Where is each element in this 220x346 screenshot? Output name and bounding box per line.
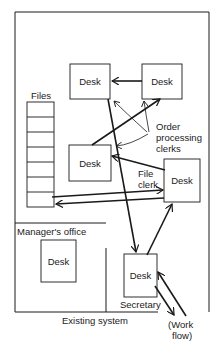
- desk-label: Desk: [41, 240, 76, 282]
- pointer-to-desk2: [144, 101, 149, 132]
- file-clerk-label-2: clerk: [138, 179, 158, 190]
- order-processing-label-3: clerks: [156, 143, 181, 154]
- files-label: Files: [31, 90, 51, 101]
- arrow-secretary-to-fileclerk: [147, 204, 172, 255]
- files-cabinet: [27, 102, 54, 207]
- work-flow-label-1: (Work: [168, 319, 193, 330]
- secretary-label: Secretary: [120, 299, 161, 310]
- diagram-title: Existing system: [62, 315, 128, 326]
- desk-label: Desk: [124, 254, 157, 297]
- pointer-to-desk3: [116, 134, 148, 146]
- manager-office-label: Manager's office: [17, 226, 86, 237]
- arrow-fileclerk-to-files: [56, 198, 164, 204]
- order-processing-label-1: Order: [156, 121, 180, 132]
- desk-label: Desk: [142, 64, 182, 99]
- arrow-desk3-to-desk2: [92, 99, 160, 145]
- work-flow-label-2: flow): [172, 330, 192, 341]
- arrow-files-to-fileclerk: [52, 190, 163, 197]
- desk-label: Desk: [164, 159, 200, 202]
- order-processing-label-2: processing: [156, 132, 202, 143]
- arrow-desk1-to-secretary: [108, 99, 136, 252]
- desk-label: Desk: [69, 145, 111, 181]
- desk-label: Desk: [70, 64, 110, 99]
- arrow-workflow-in: [158, 272, 186, 316]
- file-clerk-label-1: File: [138, 168, 153, 179]
